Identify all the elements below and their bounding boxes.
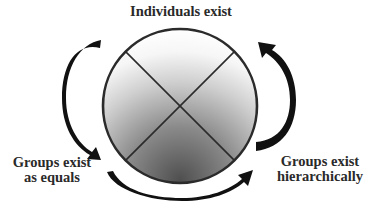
left-curved-arrow-icon (62, 40, 101, 160)
label-line-2: hierarchically (272, 169, 368, 184)
label-text: Individuals exist (130, 3, 232, 19)
label-line-1: Groups exist (6, 155, 98, 170)
label-individuals-exist: Individuals exist (130, 4, 230, 19)
cycle-diagram: Individuals exist Groups exist as equals… (0, 0, 372, 209)
label-line-2: as equals (6, 170, 98, 185)
quadrant-circle (103, 29, 257, 183)
right-curved-arrow-icon (256, 42, 296, 151)
label-groups-exist-as-equals: Groups exist as equals (6, 155, 98, 185)
label-line-1: Groups exist (272, 154, 368, 169)
label-groups-exist-hierarchically: Groups exist hierarchically (272, 154, 368, 184)
